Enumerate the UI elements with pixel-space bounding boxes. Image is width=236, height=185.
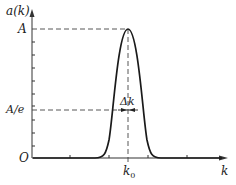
origin-label: O xyxy=(19,152,29,164)
y-axis-label: a(k) xyxy=(6,5,30,17)
center-label-sub: 0 xyxy=(130,171,135,180)
center-label: k0 xyxy=(123,165,135,180)
level-label: A/e xyxy=(6,104,24,115)
y-axis-arrow-icon xyxy=(30,9,35,17)
diagram-canvas xyxy=(0,0,236,185)
gaussian-curve xyxy=(33,29,222,158)
arrow-left-icon xyxy=(129,108,135,112)
width-label: Δk xyxy=(120,96,135,107)
gaussian-diagram: a(k) A A/e O Δk k0 k xyxy=(0,0,236,185)
arrow-right-icon xyxy=(121,108,127,112)
peak-label: A xyxy=(18,23,27,35)
x-axis-label: k xyxy=(221,165,228,177)
